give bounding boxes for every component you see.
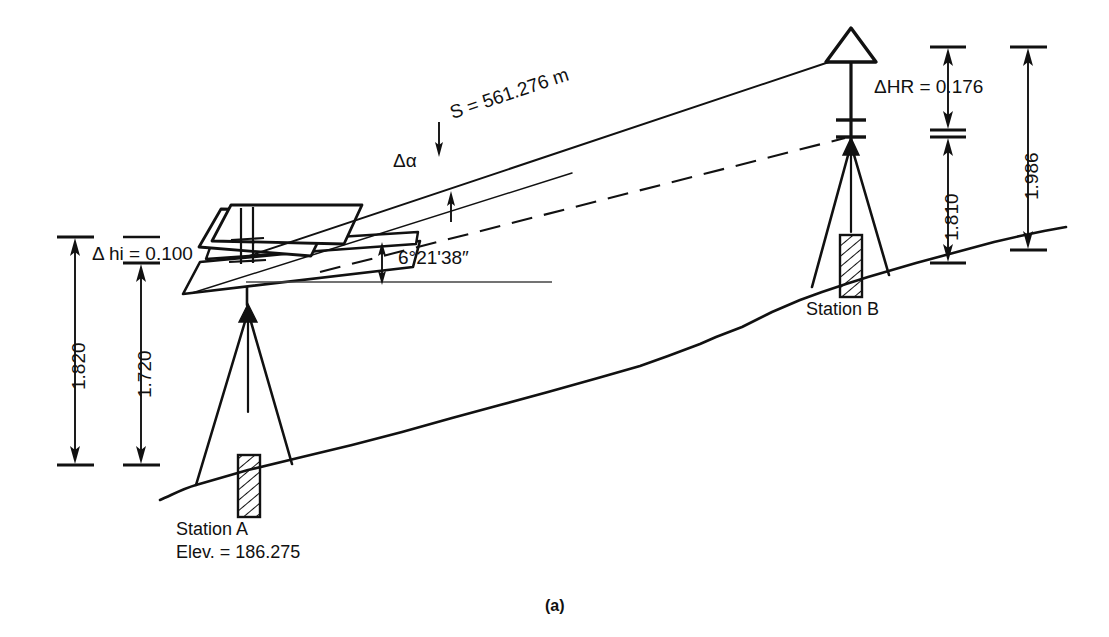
label-1820: 1.820 [68, 342, 89, 390]
figure-caption: (a) [545, 597, 565, 615]
label-1720: 1.720 [134, 350, 155, 398]
label-delta-hi: Δ hi = 0.100 [92, 243, 193, 264]
station-b-name: Station B [806, 299, 879, 320]
label-delta-hr: ΔHR = 0.176 [874, 76, 983, 97]
label-1986: 1.986 [1021, 152, 1042, 200]
label-vertical-angle: 6°21'38″ [398, 247, 469, 268]
station-a-monument [238, 455, 260, 517]
figure-canvas: Δ hi = 0.100 1.820 1.720 S = 561.276 m Δ… [0, 0, 1109, 637]
station-a-elevation: Elev. = 186.275 [176, 542, 300, 563]
station-b-monument [840, 235, 862, 297]
prism-target [826, 28, 876, 140]
label-delta-alpha: Δα [393, 150, 417, 171]
label-1810: 1.810 [941, 193, 962, 241]
station-a-name: Station A [176, 519, 248, 540]
delta-alpha-indicator [435, 122, 455, 222]
dimension-1986 [1010, 47, 1047, 250]
